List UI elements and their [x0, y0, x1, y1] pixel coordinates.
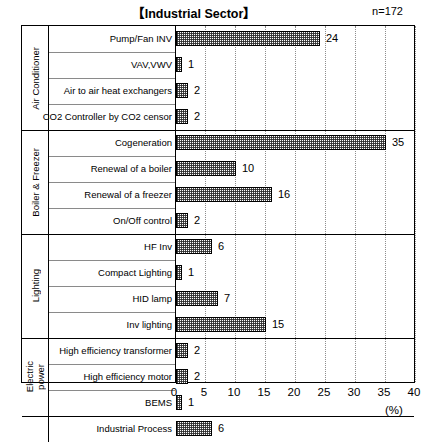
- bar-row-label: Pump/Fan INV: [110, 32, 172, 45]
- bar-row-label: Renewal of a freezer: [84, 188, 172, 201]
- row-separator: [48, 312, 175, 313]
- bar: [176, 239, 212, 254]
- bar-row: Industrial Process6: [22, 416, 414, 442]
- x-axis-unit-label: (%): [385, 404, 403, 416]
- bar: [176, 421, 212, 436]
- group-separator: [22, 130, 414, 131]
- row-separator: [48, 156, 175, 157]
- bar-row: Cogeneration35: [22, 130, 414, 156]
- row-separator: [48, 260, 175, 261]
- bar-value-label: 10: [242, 162, 254, 175]
- bar-value-label: 6: [218, 422, 224, 435]
- bar-row-label: Industrial Process: [96, 422, 172, 435]
- bar-row: Compact Lighting1: [22, 260, 414, 286]
- bar: [176, 343, 188, 358]
- x-axis-tick-label: 35: [372, 386, 396, 398]
- bar-value-label: 1: [188, 58, 194, 71]
- group-label-text: Air Conditioner: [30, 47, 41, 110]
- bar: [176, 31, 320, 46]
- x-axis-tick-label: 10: [222, 386, 246, 398]
- bar-row: Inv lighting15: [22, 312, 414, 338]
- bar-row-label: High efficiency motor: [83, 370, 172, 383]
- x-axis-tick-label: 30: [342, 386, 366, 398]
- bar-row-label: Inv lighting: [127, 318, 172, 331]
- row-separator: [48, 52, 175, 53]
- bar-value-label: 2: [194, 110, 200, 123]
- sample-size-label: n=172: [372, 5, 403, 17]
- x-axis-tick-label: 5: [192, 386, 216, 398]
- bar-row-label: HF Inv: [144, 240, 172, 253]
- bar-row: HID lamp7: [22, 286, 414, 312]
- bar-row: On/Off control2: [22, 208, 414, 234]
- bar-row: VAV,VWV1: [22, 52, 414, 78]
- page-title: 【Industrial Sector】: [0, 3, 388, 22]
- row-separator: [48, 364, 175, 365]
- bar: [176, 213, 188, 228]
- row-separator: [48, 78, 175, 79]
- group-separator: [22, 416, 414, 417]
- bar-value-label: 24: [326, 32, 338, 45]
- group-label-boiler-freezer: Boiler & Freezer: [22, 130, 48, 234]
- row-separator: [48, 182, 175, 183]
- bar-value-label: 16: [278, 188, 290, 201]
- gridline-40: [415, 26, 416, 382]
- bar-row-label: HID lamp: [132, 292, 172, 305]
- bar: [176, 135, 386, 150]
- bar-row: Air to air heat exchangers2: [22, 78, 414, 104]
- group-label-air-conditioner: Air Conditioner: [22, 26, 48, 130]
- bar-row: HF Inv6: [22, 234, 414, 260]
- bar: [176, 291, 218, 306]
- bar: [176, 369, 188, 384]
- bar: [176, 161, 236, 176]
- bar-row-label: CO2 Controller by CO2 censor: [43, 110, 172, 123]
- bar-value-label: 2: [194, 214, 200, 227]
- group-column-divider: [48, 26, 49, 442]
- x-axis: 0510152025303540: [21, 386, 415, 406]
- group-label-lighting: Lighting: [22, 234, 48, 338]
- bar-value-label: 7: [224, 292, 230, 305]
- bar: [176, 57, 182, 72]
- chart-header: 【Industrial Sector】 n=172: [0, 0, 425, 24]
- bar-value-label: 2: [194, 84, 200, 97]
- chart-plot-frame: Pump/Fan INV24VAV,VWV1Air to air heat ex…: [21, 25, 415, 383]
- bar-value-label: 2: [194, 370, 200, 383]
- bar-value-label: 1: [188, 266, 194, 279]
- bar-value-label: 6: [218, 240, 224, 253]
- row-separator: [48, 208, 175, 209]
- bar-row: High efficiency transformer2: [22, 338, 414, 364]
- bar-row-label: High efficiency transformer: [59, 344, 172, 357]
- bar-row-label: Renewal of a boiler: [91, 162, 172, 175]
- bar: [176, 265, 182, 280]
- bar-row-label: VAV,VWV: [131, 58, 172, 71]
- x-axis-tick-label: 40: [402, 386, 425, 398]
- row-separator: [48, 104, 175, 105]
- group-separator: [22, 234, 414, 235]
- bar: [176, 83, 188, 98]
- bar: [176, 317, 266, 332]
- bar-value-label: 35: [392, 136, 404, 149]
- bar-row-label: Cogeneration: [115, 136, 172, 149]
- bar-row: Renewal of a boiler10: [22, 156, 414, 182]
- bar: [176, 187, 272, 202]
- x-axis-tick-label: 15: [252, 386, 276, 398]
- row-separator: [48, 286, 175, 287]
- group-label-text: Boiler & Freezer: [30, 148, 41, 217]
- bar-row: Renewal of a freezer16: [22, 182, 414, 208]
- bar-value-label: 15: [272, 318, 284, 331]
- bar-row-label: Air to air heat exchangers: [64, 84, 172, 97]
- group-separator: [22, 338, 414, 339]
- x-axis-tick-label: 0: [162, 386, 186, 398]
- bar-value-label: 2: [194, 344, 200, 357]
- x-axis-tick-label: 25: [312, 386, 336, 398]
- group-label-text: Lighting: [30, 269, 41, 302]
- bar-row-label: On/Off control: [113, 214, 172, 227]
- bar-row-label: Compact Lighting: [98, 266, 172, 279]
- bar-row: CO2 Controller by CO2 censor2: [22, 104, 414, 130]
- bar-row: Pump/Fan INV24: [22, 26, 414, 52]
- bar: [176, 109, 188, 124]
- x-axis-tick-label: 20: [282, 386, 306, 398]
